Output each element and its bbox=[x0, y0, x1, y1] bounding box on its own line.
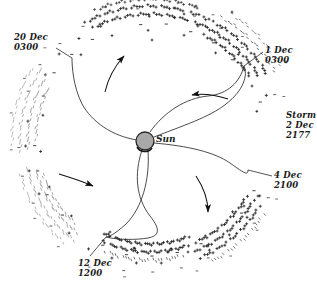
annotation-4-dec-leader bbox=[248, 170, 272, 176]
marker-band bbox=[26, 73, 46, 150]
marker-band bbox=[103, 233, 191, 247]
marker-band bbox=[10, 68, 33, 146]
annotation-12-dec-time: 1200 bbox=[78, 268, 112, 278]
marker-band bbox=[199, 205, 262, 260]
spiral-arm-3 bbox=[106, 150, 148, 237]
sun-disc bbox=[136, 132, 154, 150]
flow-arrow-upper-left bbox=[105, 56, 124, 92]
annotation-20-dec-leader bbox=[56, 48, 72, 58]
annotation-storm: Storm 2 Dec 2177 bbox=[286, 110, 316, 140]
annotation-4-dec: 4 Dec 2100 bbox=[274, 170, 302, 190]
marker-band bbox=[83, 3, 210, 24]
annotation-storm-date: 2 Dec bbox=[286, 120, 316, 130]
sun-group bbox=[136, 132, 154, 152]
annotation-20-dec-time: 0300 bbox=[14, 42, 48, 52]
spiral-arms-group bbox=[72, 58, 248, 237]
marker-band bbox=[19, 174, 64, 245]
marker-band bbox=[93, 0, 198, 11]
annotation-storm-title: Storm bbox=[286, 110, 316, 120]
annotation-4-dec-date: 4 Dec bbox=[274, 170, 302, 180]
marker-band bbox=[18, 68, 41, 153]
flow-arrow-lower-right bbox=[196, 176, 208, 212]
outer-spiral-upper bbox=[150, 66, 244, 132]
annotation-storm-time: 2177 bbox=[286, 130, 316, 140]
outer-spiral-lower bbox=[106, 150, 157, 239]
annotation-1-dec-date: 1 Dec bbox=[265, 45, 293, 55]
annotation-12-dec-date: 12 Dec bbox=[78, 258, 112, 268]
solar-wind-spiral-diagram: 20 Dec 0300 1 Dec 0300 Storm 2 Dec 2177 … bbox=[0, 0, 317, 287]
annotation-12-dec-leader bbox=[90, 237, 106, 256]
annotation-12-dec: 12 Dec 1200 bbox=[78, 258, 112, 278]
outer-spiral-group bbox=[106, 66, 244, 239]
flow-arrow-lower-left bbox=[59, 174, 93, 186]
spiral-arm-4 bbox=[72, 58, 137, 140]
marker-band bbox=[91, 11, 209, 29]
annotation-1-dec-time: 0300 bbox=[265, 55, 293, 65]
annotation-leaders-group bbox=[56, 48, 272, 256]
annotation-4-dec-time: 2100 bbox=[274, 180, 302, 190]
sun-label: Sun bbox=[156, 134, 176, 144]
annotation-1-dec: 1 Dec 0300 bbox=[265, 45, 293, 65]
marker-band bbox=[36, 169, 77, 235]
annotation-20-dec-date: 20 Dec bbox=[14, 32, 48, 42]
marker-band bbox=[26, 167, 74, 243]
spiral-arm-1 bbox=[154, 66, 245, 137]
annotation-20-dec: 20 Dec 0300 bbox=[14, 32, 48, 52]
